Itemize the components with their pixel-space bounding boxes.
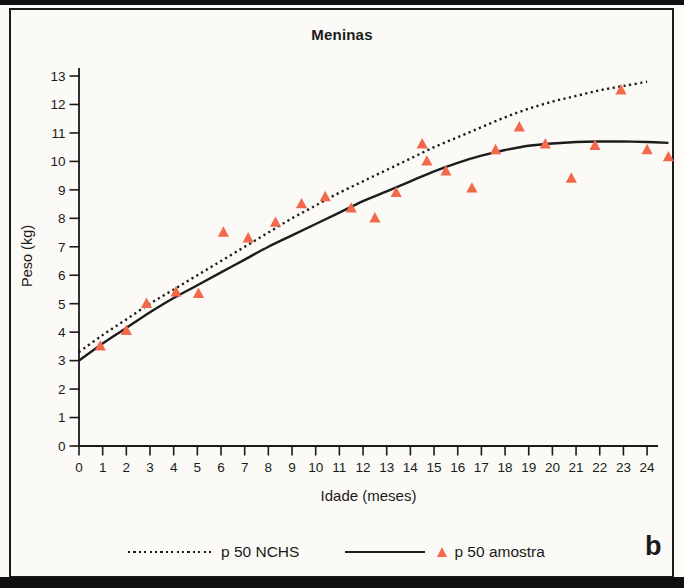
y-tick-label: 4 <box>58 325 66 340</box>
x-tick-label: 14 <box>403 460 419 475</box>
x-tick-label: 0 <box>75 460 83 475</box>
y-tick-label: 11 <box>51 126 65 141</box>
data-point-triangle <box>320 191 331 201</box>
y-tick-label: 3 <box>58 353 66 368</box>
data-point-triangle <box>270 216 281 226</box>
y-tick-label: 2 <box>58 382 66 397</box>
data-point-triangle <box>369 212 380 222</box>
x-axis-ticks: 0123456789101112131415161718192021222324 <box>75 446 655 475</box>
x-tick-label: 21 <box>569 460 584 475</box>
data-point-triangle <box>514 121 525 131</box>
x-tick-label: 13 <box>379 460 394 475</box>
x-tick-label: 18 <box>498 460 513 475</box>
legend-dotted-line-swatch <box>128 551 212 553</box>
x-tick-label: 5 <box>194 460 202 475</box>
nchs-p50-curve <box>79 82 647 352</box>
x-tick-label: 3 <box>146 460 154 475</box>
y-tick-label: 13 <box>50 69 65 84</box>
x-tick-label: 7 <box>241 460 249 475</box>
data-point-triangle <box>421 155 432 165</box>
x-tick-label: 20 <box>545 460 560 475</box>
x-tick-label: 15 <box>427 460 442 475</box>
legend-label-nchs: p 50 NCHS <box>221 543 299 561</box>
y-tick-label: 12 <box>50 97 65 112</box>
x-tick-label: 24 <box>640 460 656 475</box>
x-tick-label: 12 <box>356 460 371 475</box>
x-tick-label: 16 <box>450 460 465 475</box>
page-edge-bottom-rule <box>0 577 684 588</box>
x-tick-label: 6 <box>217 460 225 475</box>
x-tick-label: 1 <box>99 460 107 475</box>
y-axis-label: Peso (kg) <box>19 176 35 336</box>
amostra-p50-curve <box>79 141 668 360</box>
x-tick-label: 23 <box>616 460 631 475</box>
x-axis-label: Idade (meses) <box>79 487 658 504</box>
data-point-triangle <box>218 226 229 236</box>
x-tick-label: 17 <box>474 460 489 475</box>
data-point-triangle <box>566 172 577 182</box>
x-tick-label: 19 <box>521 460 536 475</box>
data-point-triangle <box>466 182 477 192</box>
legend: p 50 NCHS p 50 amostra <box>128 543 545 561</box>
axes <box>79 68 658 446</box>
x-tick-label: 11 <box>332 460 346 475</box>
y-tick-label: 6 <box>58 268 66 283</box>
y-tick-label: 0 <box>58 439 66 454</box>
data-point-triangle <box>663 151 674 161</box>
data-point-triangle <box>141 298 152 308</box>
legend-label-amostra: p 50 amostra <box>454 543 544 561</box>
data-point-triangle <box>490 144 501 154</box>
x-tick-label: 9 <box>288 460 296 475</box>
x-tick-label: 10 <box>308 460 323 475</box>
y-tick-label: 10 <box>50 154 65 169</box>
x-tick-label: 4 <box>170 460 178 475</box>
panel-label: b <box>645 531 662 562</box>
data-point-triangle <box>417 138 428 148</box>
y-tick-label: 9 <box>58 183 66 198</box>
y-axis-ticks: 012345678910111213 <box>50 69 79 454</box>
y-tick-label: 8 <box>58 211 66 226</box>
scanned-chart-figure: Meninas 01234567891011121301234567891011… <box>0 0 684 588</box>
x-tick-label: 8 <box>265 460 273 475</box>
data-point-triangle <box>193 288 204 298</box>
y-tick-label: 7 <box>58 240 66 255</box>
amostra-data-points <box>95 84 674 351</box>
y-tick-label: 5 <box>58 297 66 312</box>
data-point-triangle <box>642 144 653 154</box>
data-point-triangle <box>170 286 181 296</box>
legend-triangle-marker-icon <box>437 547 447 557</box>
x-tick-label: 2 <box>123 460 131 475</box>
y-tick-label: 1 <box>58 410 66 425</box>
data-point-triangle <box>296 198 307 208</box>
data-point-triangle <box>243 232 254 242</box>
legend-solid-line-swatch <box>345 551 425 553</box>
x-tick-label: 22 <box>592 460 607 475</box>
